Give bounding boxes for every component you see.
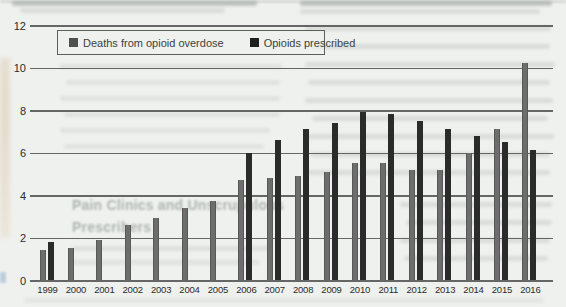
y-axis-tick-label: 0 [2, 275, 26, 287]
gridline-y10 [30, 68, 553, 70]
bar-prescribed-2009 [332, 123, 338, 280]
bar-deaths-2013 [437, 170, 443, 281]
bar-deaths-2009 [324, 172, 330, 280]
bar-deaths-2001 [96, 240, 102, 280]
x-axis-tick-label-2001: 2001 [88, 284, 120, 295]
gridline-y8 [30, 110, 553, 112]
gridline-y0 [30, 280, 553, 282]
bar-prescribed-2014 [474, 136, 480, 281]
x-axis-tick-label-2016: 2016 [514, 284, 546, 295]
bar-deaths-1999 [40, 250, 46, 280]
bar-deaths-2016 [522, 63, 528, 280]
y-axis-tick-label: 10 [2, 62, 26, 74]
y-axis-tick-label: 8 [2, 105, 26, 117]
bar-deaths-2008 [295, 176, 301, 280]
x-axis-tick-label-2002: 2002 [117, 284, 149, 295]
x-axis-tick-label-2014: 2014 [458, 284, 490, 295]
x-axis-tick-label-2011: 2011 [372, 284, 404, 295]
bar-deaths-2000 [68, 248, 74, 280]
bar-prescribed-2012 [417, 121, 423, 280]
gridline-y12 [30, 25, 553, 27]
bar-deaths-2012 [409, 170, 415, 281]
y-axis-tick-label: 4 [2, 190, 26, 202]
x-axis-tick-label-2013: 2013 [429, 284, 461, 295]
bar-prescribed-2015 [502, 142, 508, 280]
bar-prescribed-2010 [360, 112, 366, 280]
bar-deaths-2006 [238, 180, 244, 280]
bar-deaths-2011 [380, 163, 386, 280]
x-axis-tick-label-2005: 2005 [202, 284, 234, 295]
legend-label-prescribed: Opioids prescribed [264, 37, 356, 49]
x-axis-tick-label-2004: 2004 [174, 284, 206, 295]
x-axis-tick-label-2010: 2010 [344, 284, 376, 295]
bar-prescribed-1999 [48, 242, 54, 280]
legend-item-prescribed: Opioids prescribed [250, 37, 356, 49]
deaths-series-swatch-icon [69, 38, 78, 47]
legend-item-deaths: Deaths from opioid overdose [69, 37, 224, 49]
y-axis-tick-label: 6 [2, 147, 26, 159]
bar-prescribed-2007 [275, 140, 281, 280]
bar-deaths-2002 [125, 225, 131, 280]
y-axis-tick-label: 12 [2, 20, 26, 32]
x-axis-tick-label-2003: 2003 [145, 284, 177, 295]
scanned-book-page: Pain Clinics and Unscrupulous Prescriber… [0, 0, 566, 307]
chart-legend: Deaths from opioid overdose Opioids pres… [57, 30, 325, 55]
bar-prescribed-2013 [445, 129, 451, 280]
x-axis-tick-label-2007: 2007 [259, 284, 291, 295]
x-axis-tick-label-2009: 2009 [316, 284, 348, 295]
x-axis-tick-label-2006: 2006 [230, 284, 262, 295]
bar-prescribed-2011 [388, 114, 394, 280]
x-axis-tick-label-2008: 2008 [287, 284, 319, 295]
bar-deaths-2005 [210, 201, 216, 280]
x-axis-tick-label-2012: 2012 [401, 284, 433, 295]
legend-label-deaths: Deaths from opioid overdose [83, 37, 224, 49]
bar-deaths-2003 [153, 218, 159, 280]
x-axis-tick-label-1999: 1999 [32, 284, 64, 295]
bar-prescribed-2016 [530, 150, 536, 280]
bar-deaths-2015 [494, 129, 500, 280]
bar-prescribed-2006 [246, 153, 252, 281]
bar-deaths-2004 [182, 208, 188, 280]
bar-deaths-2014 [466, 153, 472, 281]
x-axis-tick-label-2015: 2015 [486, 284, 518, 295]
bar-deaths-2007 [267, 178, 273, 280]
bar-deaths-2010 [352, 163, 358, 280]
prescribed-series-swatch-icon [250, 38, 259, 47]
bar-prescribed-2008 [303, 129, 309, 280]
y-axis-tick-label: 2 [2, 232, 26, 244]
x-axis-tick-label-2000: 2000 [60, 284, 92, 295]
